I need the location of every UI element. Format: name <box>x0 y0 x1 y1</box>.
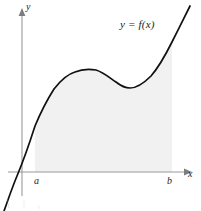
curve-label: y = f(x) <box>120 19 155 30</box>
figure-container: y = f(x) y x a b <box>0 0 201 211</box>
x-tick-label-b: b <box>167 176 172 186</box>
x-tick-label-a: a <box>34 176 39 186</box>
y-axis-label: y <box>26 2 30 12</box>
page-edge-artifacts <box>7 198 40 209</box>
x-axis-label: x <box>188 169 192 179</box>
y-axis-arrowhead <box>19 8 26 16</box>
shaded-area-under-curve <box>35 42 172 172</box>
